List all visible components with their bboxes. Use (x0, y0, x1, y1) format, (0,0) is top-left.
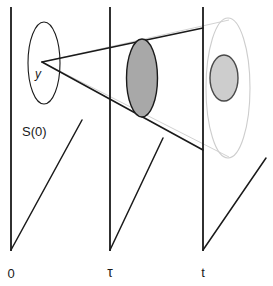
label-axis-time-t: t (201, 265, 205, 280)
cone-diagram-svg: y S(0) 0 τ t (0, 0, 273, 286)
label-axis-time-tau: τ (107, 264, 113, 280)
plane-tau-diagonal (110, 138, 163, 250)
t-reachable-disk (210, 55, 238, 101)
label-initial-point-y: y (34, 67, 42, 81)
plane-t-diagonal (203, 158, 266, 250)
label-axis-time-zero: 0 (7, 266, 14, 281)
cone-upper-edge (42, 28, 203, 62)
figure-canvas: y S(0) 0 τ t (0, 0, 273, 286)
plane-0-diagonal (11, 120, 82, 250)
tau-reachable-disk (127, 39, 158, 117)
label-initial-set: S(0) (22, 124, 47, 139)
cone-lower-edge (42, 62, 203, 150)
slice-plane-diagonals (11, 120, 266, 250)
